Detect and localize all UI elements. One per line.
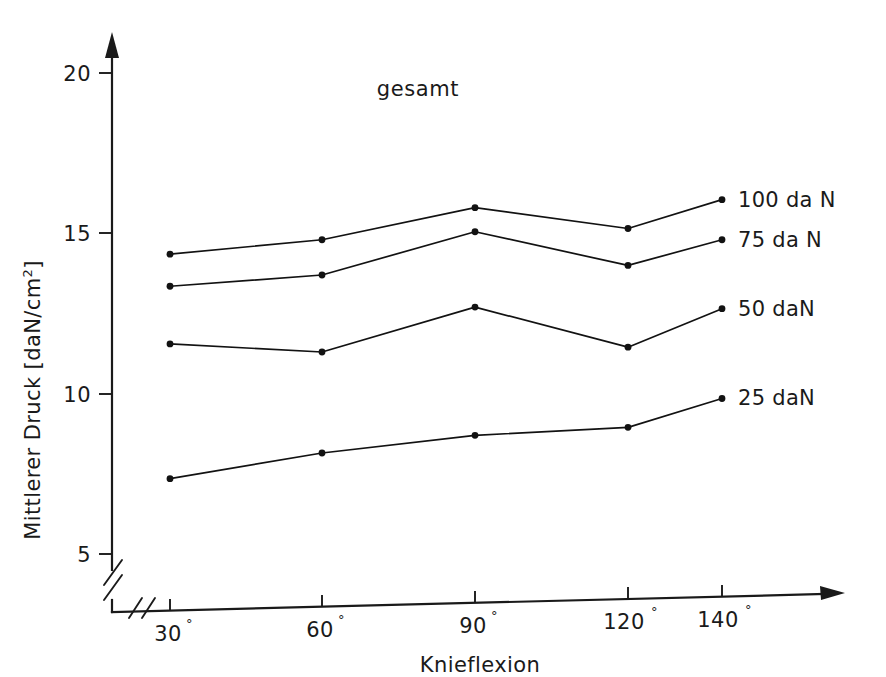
data-point: [625, 262, 632, 269]
x-tick-label-140-value: 140: [697, 608, 739, 632]
data-point: [167, 251, 174, 258]
x-tick-label-120-degree: °: [651, 604, 658, 619]
data-point: [472, 228, 479, 235]
y-tick-label-10: 10: [63, 383, 91, 407]
data-point: [167, 283, 174, 290]
y-tick-label-15: 15: [63, 222, 91, 246]
y-axis-title-superscript: 2: [20, 269, 35, 278]
data-point: [719, 305, 726, 312]
x-tick-label-120-value: 120: [603, 610, 645, 634]
x-tick-label-30-degree: °: [186, 616, 193, 631]
y-axis-title: Mittlerer Druck [daN/cm2]: [20, 260, 45, 540]
y-axis-title-base: Mittlerer Druck [daN/cm: [21, 277, 45, 539]
series-label-50-dan: 50 daN: [738, 297, 815, 321]
x-axis-title: Knieflexion: [420, 653, 540, 677]
data-point: [472, 304, 479, 311]
chart-figure: 20 15 10 5 30 °: [0, 0, 886, 677]
data-point: [319, 450, 326, 457]
y-tick-label-5: 5: [77, 543, 91, 567]
chart-svg: 20 15 10 5 30 °: [0, 0, 886, 677]
data-point: [719, 236, 726, 243]
y-axis-title-tail: ]: [21, 260, 45, 269]
x-tick-label-90-value: 90: [459, 614, 487, 638]
data-point: [625, 424, 632, 431]
data-point: [472, 432, 479, 439]
x-tick-label-140-degree: °: [745, 602, 752, 617]
y-tick-label-20: 20: [63, 62, 91, 86]
series-label-25-dan: 25 daN: [738, 386, 815, 410]
data-point: [319, 272, 326, 279]
chart-title: gesamt: [377, 77, 459, 101]
x-tick-label-60-degree: °: [338, 612, 345, 627]
data-point: [319, 236, 326, 243]
chart-background: [0, 0, 886, 677]
data-point: [167, 341, 174, 348]
x-tick-label-30-value: 30: [154, 622, 182, 646]
data-point: [319, 349, 326, 356]
x-tick-label-90-degree: °: [491, 608, 498, 623]
data-point: [719, 196, 726, 203]
series-label-75-dan: 75 da N: [738, 228, 822, 252]
data-point: [472, 204, 479, 211]
data-point: [167, 475, 174, 482]
x-tick-label-60-value: 60: [306, 618, 334, 642]
data-point: [625, 344, 632, 351]
data-point: [719, 395, 726, 402]
svg-text:Mittlerer Druck [daN/cm2]: Mittlerer Druck [daN/cm2]: [20, 260, 45, 540]
data-point: [625, 225, 632, 232]
series-label-100-dan: 100 da N: [738, 188, 836, 212]
